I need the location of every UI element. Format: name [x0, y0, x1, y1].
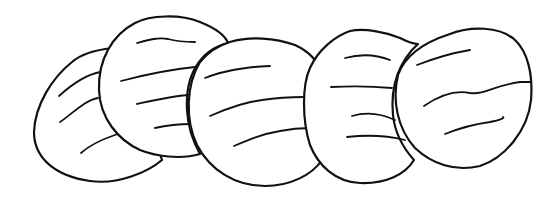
round-shape-5: [396, 29, 532, 168]
round-shapes-drawing: [0, 0, 560, 201]
round-shape-3: [189, 38, 322, 186]
illustration: [0, 0, 560, 201]
